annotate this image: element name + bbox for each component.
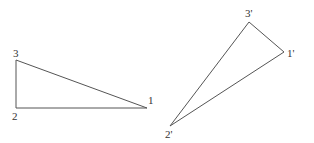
triangle-original: 1 2 3 bbox=[12, 47, 154, 122]
triangle-transformed: 1' 2' 3' bbox=[165, 7, 295, 140]
triangle-transformed-shape bbox=[170, 22, 284, 126]
vertex-label-3-prime: 3' bbox=[245, 7, 253, 19]
vertex-label-3: 3 bbox=[13, 47, 19, 59]
vertex-label-2: 2 bbox=[12, 110, 18, 122]
triangle-original-shape bbox=[16, 60, 147, 108]
vertex-label-1-prime: 1' bbox=[287, 47, 295, 59]
diagram-canvas: 1 2 3 1' 2' 3' bbox=[0, 0, 314, 143]
vertex-label-1: 1 bbox=[148, 94, 154, 106]
vertex-label-2-prime: 2' bbox=[165, 128, 173, 140]
